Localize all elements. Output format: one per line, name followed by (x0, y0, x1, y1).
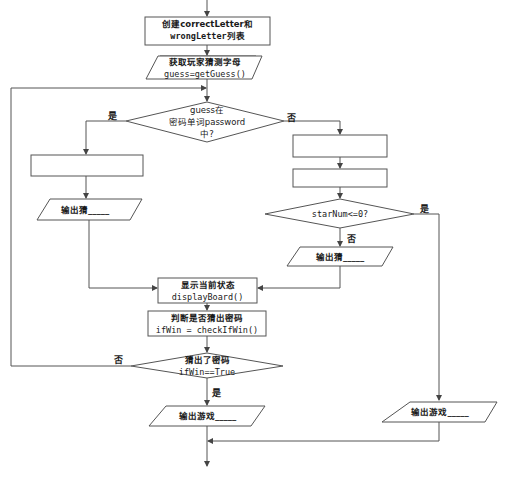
right-blank-box-2 (293, 169, 387, 187)
edge-label-starnum-yes: 是 (420, 202, 429, 215)
decision-win-line1: 猜出了密码 (150, 354, 264, 366)
decision-win-line2: ifWin==True (150, 366, 264, 378)
decision-in-password-label: guess在 密码单词password 中? (150, 104, 264, 140)
decision1-line2: 密码单词password (150, 116, 264, 128)
display-board-label: 显示当前状态 displayBoard() (158, 279, 257, 303)
edge-label-in-password-yes: 是 (108, 109, 117, 122)
display-board-line1: 显示当前状态 (158, 279, 257, 291)
output-left-label: 输出猜_____ (40, 204, 130, 216)
input-guess-line2: guess=getGuess() (150, 68, 260, 80)
edge-label-win-yes: 是 (212, 386, 221, 399)
left-blank-box (31, 155, 143, 176)
check-win-line2: ifWin = checkIfWin() (148, 324, 266, 336)
display-board-line2: displayBoard() (158, 291, 257, 303)
decision1-line1: guess在 (150, 104, 264, 116)
decision-win-label: 猜出了密码 ifWin==True (150, 354, 264, 378)
init-box-label: 创建correctLetter和 wrongLetter列表 (145, 18, 270, 42)
output-game-left-label: 输出游戏_____ (155, 410, 260, 422)
init-line2: wrongLetter列表 (145, 30, 270, 42)
edge-label-win-no: 否 (114, 353, 123, 366)
init-line1: 创建correctLetter和 (145, 18, 270, 30)
input-guess-label: 获取玩家猜测字母 guess=getGuess() (150, 56, 260, 80)
edge-label-in-password-no: 否 (287, 111, 296, 124)
output-right-mid-label: 输出猜_____ (292, 251, 388, 263)
check-win-label: 判断是否猜出密码 ifWin = checkIfWin() (148, 312, 266, 336)
output-game-right-label: 输出游戏_____ (390, 406, 490, 418)
decision1-line3: 中? (150, 128, 264, 140)
input-guess-line1: 获取玩家猜测字母 (150, 56, 260, 68)
right-blank-box-1 (293, 135, 387, 157)
decision-starnum-label: starNum<=0? (270, 208, 410, 220)
edge-label-starnum-no: 否 (347, 232, 356, 245)
check-win-line1: 判断是否猜出密码 (148, 312, 266, 324)
